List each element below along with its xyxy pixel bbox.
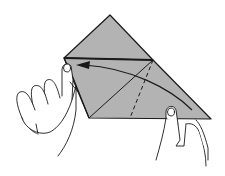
left-hand-icon xyxy=(17,64,78,156)
origami-illustration: Origami folding step: hands holding a gr… xyxy=(0,0,225,176)
origami-diagram xyxy=(0,0,225,176)
